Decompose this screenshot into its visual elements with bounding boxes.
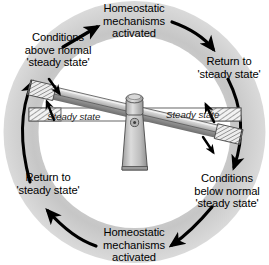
label-line: below normal [186, 185, 268, 198]
label-line: Homeostatic [78, 226, 190, 239]
label-line: 'steady state' [2, 184, 94, 197]
label-conditions-below-normal: Conditions below normal 'steady state' [186, 172, 268, 210]
label-line: activated [78, 251, 190, 264]
label-line: mechanisms [78, 15, 190, 28]
label-line: 'steady state' [186, 197, 268, 210]
homeostasis-diagram: Homeostatic mechanisms activated Conditi… [0, 0, 269, 265]
label-homeostatic-bottom: Homeostatic mechanisms activated [78, 226, 190, 264]
label-line: 'steady state' [6, 56, 110, 69]
label-line: Return to [190, 55, 268, 68]
label-line: Homeostatic [78, 2, 190, 15]
seesaw-steady-state-right: Steady state [166, 109, 219, 120]
label-conditions-above-normal: Conditions above normal 'steady state' [6, 31, 110, 69]
label-line: mechanisms [78, 239, 190, 252]
label-line: Conditions [6, 31, 110, 44]
label-return-to-steady-state-upper: Return to 'steady state' [190, 55, 268, 80]
label-line: above normal [6, 44, 110, 57]
label-return-to-steady-state-lower: Return to 'steady state' [2, 171, 94, 196]
label-line: 'steady state' [190, 68, 268, 81]
label-line: Conditions [186, 172, 268, 185]
label-line: Return to [2, 171, 94, 184]
seesaw-steady-state-left: Steady state [47, 111, 100, 122]
